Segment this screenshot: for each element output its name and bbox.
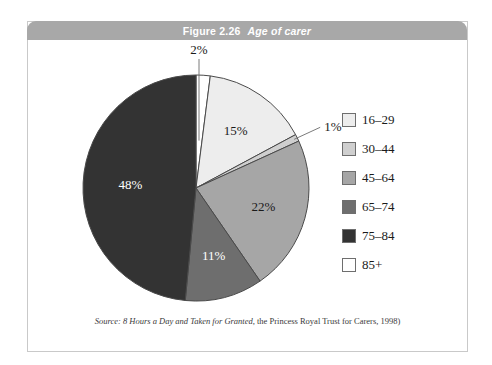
source-work-title: 8 Hours a Day and Taken for Granted	[123, 316, 253, 326]
legend-swatch	[342, 142, 356, 156]
legend-swatch	[342, 113, 356, 127]
legend-label: 65–74	[362, 199, 395, 215]
pie-callout-label: 2%	[190, 42, 208, 57]
legend-label: 45–64	[362, 170, 395, 186]
legend: 16–2930–4445–6465–7475–8485+	[342, 113, 452, 287]
source-publisher: , the Princess Royal Trust for Carers, 1…	[253, 316, 401, 326]
source-lead: Source:	[95, 316, 121, 326]
pie-slice-label: 11%	[202, 248, 226, 263]
figure-title-bar: Figure 2.26Age of carer	[27, 21, 467, 40]
pie-slice-label: 15%	[224, 123, 248, 138]
legend-item[interactable]: 45–64	[342, 171, 452, 185]
legend-item[interactable]: 75–84	[342, 229, 452, 243]
figure-number: Figure 2.26	[183, 25, 241, 37]
legend-item[interactable]: 30–44	[342, 142, 452, 156]
legend-label: 30–44	[362, 141, 395, 157]
pie-slice-label: 48%	[119, 177, 143, 192]
source-note: Source: 8 Hours a Day and Taken for Gran…	[27, 316, 468, 326]
legend-label: 75–84	[362, 228, 395, 244]
legend-item[interactable]: 85+	[342, 258, 452, 272]
pie-callout-label: 1%	[324, 119, 342, 134]
pie-slices	[83, 75, 309, 301]
pie-slice-label: 22%	[252, 199, 276, 214]
legend-item[interactable]: 16–29	[342, 113, 452, 127]
figure-title: Figure 2.26Age of carer	[183, 25, 311, 37]
figure-name: Age of carer	[247, 25, 311, 37]
legend-swatch	[342, 171, 356, 185]
legend-swatch	[342, 200, 356, 214]
legend-item[interactable]: 65–74	[342, 200, 452, 214]
legend-label: 16–29	[362, 112, 395, 128]
callout-leader-line	[294, 127, 320, 139]
legend-swatch	[342, 258, 356, 272]
legend-label: 85+	[362, 257, 382, 273]
legend-swatch	[342, 229, 356, 243]
